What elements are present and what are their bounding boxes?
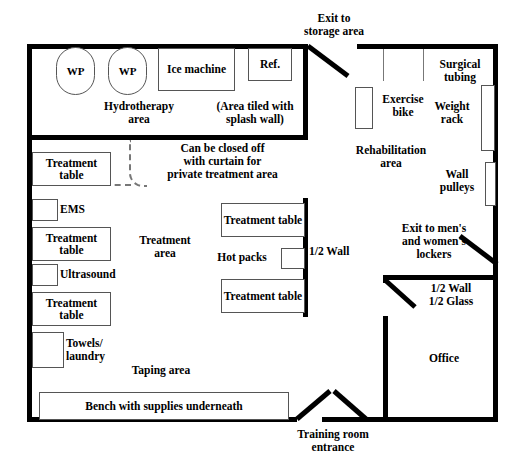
floor-plan-diagram: WP WP Ice machine Ref. Hydrotherapy area… bbox=[0, 0, 523, 460]
entrance-label: Training room entrance bbox=[278, 428, 388, 454]
hot-packs-box bbox=[281, 248, 305, 269]
wall-office-left-stub bbox=[383, 275, 388, 283]
surgical-tubing-line-1 bbox=[383, 49, 384, 81]
office-wall-note: 1/2 Wall 1/2 Glass bbox=[410, 282, 492, 308]
ems-label: EMS bbox=[60, 203, 108, 216]
towels-laundry-label: Towels/ laundry bbox=[66, 337, 126, 363]
ultrasound-unit-box bbox=[32, 264, 58, 286]
treatment-table-3: Treatment table bbox=[32, 292, 111, 326]
treatment-table-2: Treatment table bbox=[32, 227, 111, 261]
wall-pulleys-label: Wall pulleys bbox=[430, 168, 484, 194]
hydrotherapy-area-label: Hydrotherapy area bbox=[84, 100, 194, 126]
hot-packs-label: Hot packs bbox=[209, 251, 275, 264]
weight-rack-box bbox=[481, 85, 495, 151]
ice-machine: Ice machine bbox=[158, 48, 235, 91]
treatment-table-5: Treatment table bbox=[221, 279, 305, 313]
exit-storage-label: Exit to storage area bbox=[279, 12, 389, 38]
door-entrance-left bbox=[297, 391, 330, 419]
half-wall-treatment-label: 1/2 Wall bbox=[309, 245, 363, 258]
treatment-table-1: Treatment table bbox=[32, 152, 111, 186]
ems-unit-box bbox=[32, 199, 58, 221]
rehabilitation-area-label: Rehabilitation area bbox=[339, 144, 443, 170]
refrigerator: Ref. bbox=[248, 48, 292, 81]
wall-hydrotherapy-divider bbox=[27, 135, 308, 140]
taping-area-label: Taping area bbox=[106, 364, 216, 377]
exit-lockers-label: Exit to men's and women's lockers bbox=[384, 222, 484, 261]
weight-rack-label: Weight rack bbox=[424, 100, 480, 126]
office-label: Office bbox=[410, 352, 478, 365]
treatment-area-label: Treatment area bbox=[122, 234, 208, 260]
exercise-bike-box bbox=[355, 87, 373, 129]
door-storage-exit bbox=[308, 46, 348, 76]
tiled-splash-wall-note: (Area tiled with splash wall) bbox=[196, 100, 314, 126]
wall-top-right bbox=[357, 44, 498, 49]
wall-pulleys-box bbox=[485, 162, 496, 206]
curtain-note: Can be closed off with curtain for priva… bbox=[139, 142, 306, 181]
bench-with-supplies: Bench with supplies underneath bbox=[39, 392, 289, 420]
whirlpool-tank-1: WP bbox=[56, 47, 95, 95]
surgical-tubing-label: Surgical tubing bbox=[424, 58, 496, 84]
door-entrance-right bbox=[334, 391, 366, 419]
towels-laundry-box bbox=[32, 332, 64, 368]
treatment-table-4: Treatment table bbox=[221, 203, 305, 237]
ultrasound-label: Ultrasound bbox=[60, 268, 138, 281]
wall-office-top bbox=[383, 275, 498, 280]
wall-office-left bbox=[383, 316, 388, 422]
whirlpool-tank-2: WP bbox=[108, 47, 147, 95]
wall-bottom-center bbox=[322, 417, 366, 422]
